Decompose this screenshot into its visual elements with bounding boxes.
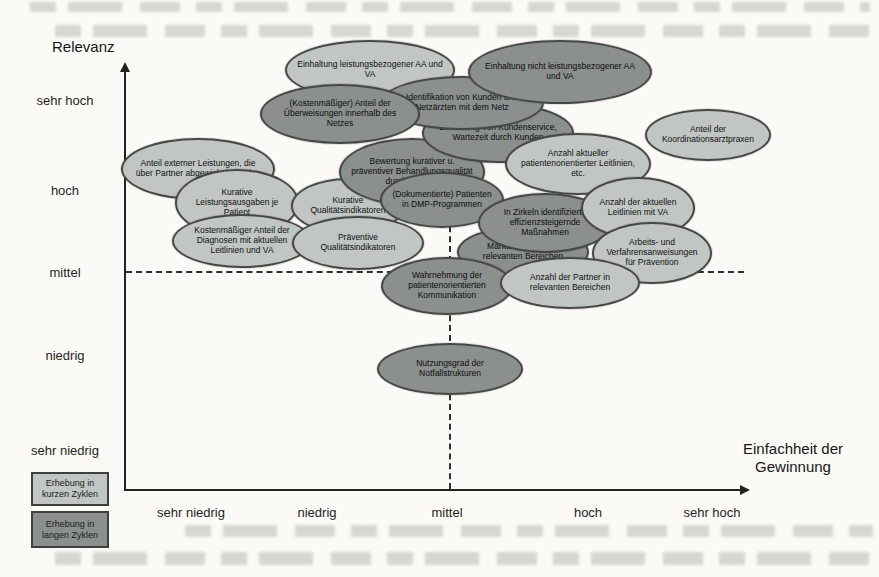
bubble-layer: Anteil externer Leistungen, die über Par…: [0, 0, 879, 577]
matrix-bubble: (Kostenmäßiger) Anteil der Überweisungen…: [260, 84, 420, 144]
matrix-bubble: Anteil der Koordinationsarztpraxen: [645, 109, 771, 161]
matrix-bubble-label: Kostenmäßiger Anteil der Diagnosen mit a…: [183, 226, 301, 255]
matrix-bubble: Anzahl der Partner in relevanten Bereich…: [500, 257, 640, 309]
matrix-bubble-label: Nutzungsgrad der Notfallstrukturen: [388, 359, 512, 379]
matrix-bubble-label: Einhaltung nicht leistungsbezogener AA u…: [479, 62, 641, 82]
legend-lange-zyklen: Erhebung in langen Zyklen: [31, 511, 109, 548]
matrix-bubble-label: Präventive Qualitätsindikatoren: [303, 233, 413, 253]
matrix-bubble: Kostenmäßiger Anteil der Diagnosen mit a…: [172, 214, 312, 268]
legend-kurze-zyklen: Erhebung in kurzen Zyklen: [31, 472, 109, 506]
matrix-bubble: Präventive Qualitätsindikatoren: [292, 216, 424, 270]
matrix-bubble: Nutzungsgrad der Notfallstrukturen: [377, 343, 523, 395]
matrix-bubble-label: Anteil der Koordinationsarztpraxen: [656, 125, 760, 145]
matrix-bubble-label: (Kostenmäßiger) Anteil der Überweisungen…: [271, 99, 409, 128]
matrix-bubble-label: Anzahl aktueller patientenorientierter L…: [516, 149, 640, 178]
matrix-bubble-label: Wahrnehmung der patientenorientierten Ko…: [392, 271, 502, 300]
matrix-bubble: Einhaltung nicht leistungsbezogener AA u…: [468, 40, 652, 104]
matrix-bubble-label: Anzahl der aktuellen Leitlinien mit VA: [592, 198, 684, 218]
matrix-bubble-label: Anzahl der Partner in relevanten Bereich…: [511, 273, 629, 293]
matrix-bubble: Wahrnehmung der patientenorientierten Ko…: [381, 257, 513, 315]
matrix-bubble-label: (Dokumentierte) Patienten in DMP-Program…: [391, 190, 493, 210]
matrix-bubble-label: Einhaltung leistungsbezogener AA und VA: [296, 60, 444, 80]
